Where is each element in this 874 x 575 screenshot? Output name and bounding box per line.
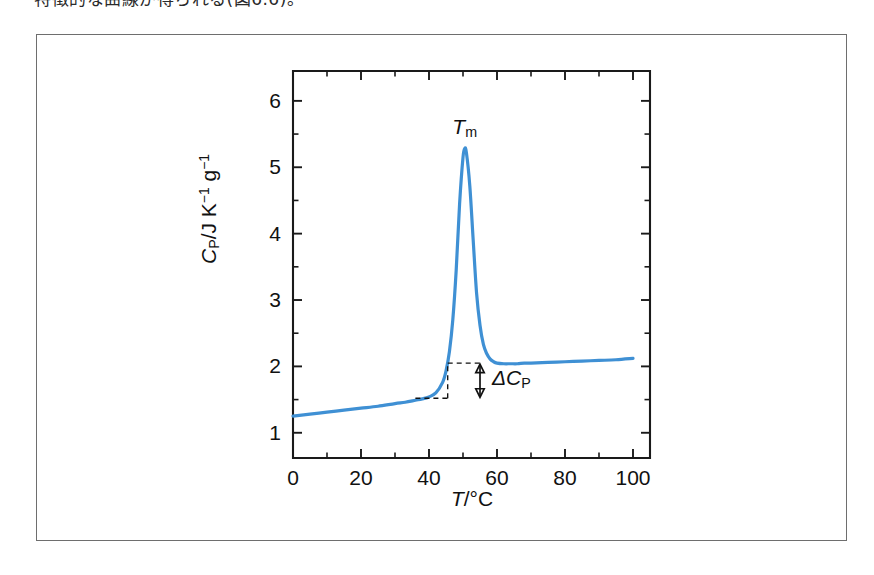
x-tick-label: 0 <box>287 466 299 490</box>
x-tick-label: 20 <box>349 466 372 490</box>
y-tick-label: 5 <box>253 155 281 179</box>
x-axis-title: T/°C <box>451 487 493 511</box>
y-axis-unit-g-exponent: −1 <box>196 154 212 170</box>
y-tick-label: 2 <box>253 354 281 378</box>
x-tick-label: 80 <box>553 466 576 490</box>
x-tick-label: 100 <box>615 466 650 490</box>
page-caption-text: 特徴的な曲線が得られる(図6.6)。 <box>34 0 304 10</box>
delta-cp-symbol: ΔC <box>492 366 521 389</box>
page-caption-strip: 特徴的な曲線が得られる(図6.6)。 <box>0 0 874 22</box>
delta-cp-annotation-label: ΔCP <box>492 366 531 391</box>
tm-symbol: T <box>452 115 465 138</box>
tm-subscript: m <box>465 124 477 140</box>
y-axis-separator: / <box>197 233 220 239</box>
peak-annotation-label: Tm <box>452 115 477 140</box>
delta-cp-subscript: P <box>521 375 531 391</box>
y-axis-unit-k-exponent: −1 <box>196 187 212 203</box>
y-tick-label: 6 <box>253 89 281 113</box>
y-tick-label: 1 <box>253 421 281 445</box>
figure-frame <box>36 34 847 541</box>
y-axis-unit-jk: J K <box>197 203 220 233</box>
y-axis-symbol: C <box>197 249 220 264</box>
x-axis-symbol: T <box>451 487 464 510</box>
y-tick-label: 3 <box>253 288 281 312</box>
y-axis-unit-g: g <box>197 170 220 188</box>
x-axis-unit: °C <box>470 487 494 510</box>
x-tick-label: 40 <box>417 466 440 490</box>
y-tick-label: 4 <box>253 222 281 246</box>
y-axis-title: CP/J K−1 g−1 <box>196 154 222 264</box>
y-axis-symbol-subscript: P <box>206 239 222 249</box>
